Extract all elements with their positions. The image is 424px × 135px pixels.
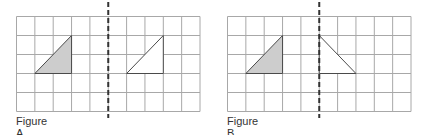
figure-b-label: Figure B: [227, 115, 258, 135]
figure-b-grid: [227, 0, 417, 120]
figure-a-label: Figure A: [16, 115, 47, 135]
figure-a-grid: [16, 0, 206, 120]
